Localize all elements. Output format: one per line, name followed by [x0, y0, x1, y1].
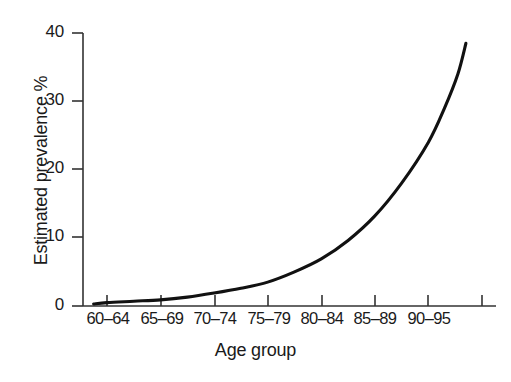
y-axis-title: Estimated prevalence % — [31, 46, 52, 296]
x-tick-label-70-74: 70–74 — [188, 309, 242, 328]
x-tick-label-65-69: 65–69 — [135, 309, 189, 328]
x-tick-label-80-84: 80–84 — [295, 309, 349, 328]
x-tick-label-90-95: 90–95 — [402, 309, 456, 328]
x-tick-label-75-79: 75–79 — [242, 309, 296, 328]
prevalence-curve — [94, 43, 466, 304]
y-tick-label-0: 0 — [30, 295, 64, 315]
x-tick-label-85-89: 85–89 — [348, 309, 402, 328]
y-tick-marks — [72, 33, 83, 306]
x-tick-label-60-64: 60–64 — [81, 309, 135, 328]
y-tick-label-40: 40 — [30, 22, 64, 42]
chart-figure: 40 30 20 10 0 60–64 65–69 70–74 75–79 80… — [0, 0, 511, 382]
x-axis-title: Age group — [0, 340, 511, 361]
